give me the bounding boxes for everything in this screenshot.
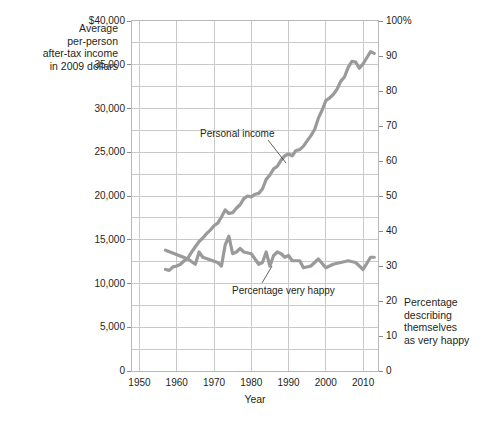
x-tick-label: 1950 (119, 377, 159, 388)
plot-svg (132, 21, 378, 371)
chart-figure: Averageper-personafter-tax incomein 2009… (0, 0, 484, 422)
right-tick-label: 20 (386, 295, 426, 306)
x-tick-label: 2000 (306, 377, 346, 388)
left-tick-label: 35,000 (65, 59, 125, 70)
series-line-personal-income (166, 52, 375, 271)
plot-area (131, 20, 379, 372)
x-tick-label: 1990 (269, 377, 309, 388)
right-tick-label: 30 (386, 260, 426, 271)
x-tick-label: 1970 (194, 377, 234, 388)
left-axis-title-line-1: per-person (2, 35, 118, 48)
right-tick-label: 40 (386, 225, 426, 236)
annotation-percentage-very-happy: Percentage very happy (232, 285, 335, 296)
x-tick-label: 1980 (231, 377, 271, 388)
annotation-personal-income: Personal income (200, 128, 274, 139)
right-tick-label: 70 (386, 120, 426, 131)
right-tick-label: 80 (386, 85, 426, 96)
x-tick-label: 1960 (157, 377, 197, 388)
x-tick-label: 2010 (343, 377, 383, 388)
right-tick-label: 10 (386, 330, 426, 341)
left-tick-label: 25,000 (65, 146, 125, 157)
right-tick-label: 100% (386, 15, 426, 26)
series-line-percentage-very-happy (166, 236, 375, 269)
right-axis-title-line-1: describing (404, 309, 484, 322)
left-tick-label: 0 (65, 365, 125, 376)
x-axis-title: Year (131, 393, 379, 406)
right-tick-label: 90 (386, 50, 426, 61)
right-tick-label: 60 (386, 155, 426, 166)
left-tick-label: 10,000 (65, 278, 125, 289)
left-tick-label: 15,000 (65, 234, 125, 245)
right-tick-label: 50 (386, 190, 426, 201)
left-tick-label: 30,000 (65, 103, 125, 114)
left-tick-label: 5,000 (65, 321, 125, 332)
left-tick-label: $40,000 (65, 15, 125, 26)
left-tick-label: 20,000 (65, 190, 125, 201)
right-tick-label: 0 (386, 365, 426, 376)
